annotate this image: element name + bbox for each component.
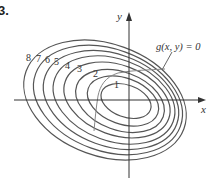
constraint-leader-line <box>162 52 172 70</box>
contour-label-3: 3 <box>77 63 82 74</box>
y-axis-arrow-icon <box>126 12 132 21</box>
contour-label-8: 8 <box>26 52 31 63</box>
contour-label-1: 1 <box>114 79 119 90</box>
contour-label-7: 7 <box>36 53 41 64</box>
contour-label-5: 5 <box>54 56 59 67</box>
contour-diagram: 12345678 g(x, y) = 0 x y <box>0 0 218 178</box>
contour-label-2: 2 <box>93 68 98 79</box>
constraint-label: g(x, y) = 0 <box>156 41 201 53</box>
contour-label-6: 6 <box>45 54 50 65</box>
contour-label-4: 4 <box>65 60 70 71</box>
x-axis-label: x <box>200 103 206 115</box>
y-axis-label: y <box>116 10 122 22</box>
